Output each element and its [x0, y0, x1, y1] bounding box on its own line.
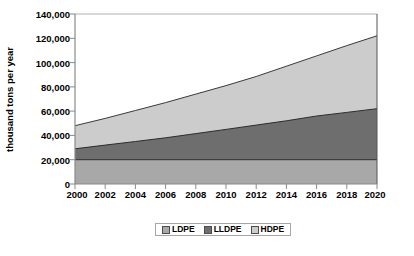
legend-swatch-icon	[251, 226, 259, 234]
area-chart: thousand tons per year 140,000 120,000 1…	[0, 0, 414, 256]
x-tick-label: 2004	[125, 189, 146, 200]
legend-label: LDPE	[172, 225, 195, 234]
x-tick-label: 2000	[66, 189, 87, 200]
legend-label: HDPE	[261, 225, 285, 234]
legend-swatch-icon	[204, 226, 212, 234]
x-tick-label: 2006	[155, 189, 176, 200]
x-axis-tick-labels: 2000 2002 2004 2006 2008 2010 2012 2014 …	[0, 0, 414, 256]
chart-legend: LDPE LLDPE HDPE	[155, 223, 291, 236]
x-tick-label: 2018	[336, 189, 357, 200]
legend-item-lldpe[interactable]: LLDPE	[204, 225, 242, 234]
legend-label: LLDPE	[214, 225, 242, 234]
x-tick-label: 2008	[185, 189, 206, 200]
legend-item-ldpe[interactable]: LDPE	[162, 225, 195, 234]
x-tick-label: 2002	[95, 189, 116, 200]
legend-item-hdpe[interactable]: HDPE	[251, 225, 285, 234]
x-tick-label: 2020	[364, 189, 385, 200]
x-tick-label: 2014	[276, 189, 297, 200]
x-tick-label: 2012	[246, 189, 267, 200]
legend-swatch-icon	[162, 226, 170, 234]
x-tick-label: 2016	[306, 189, 327, 200]
x-tick-label: 2010	[215, 189, 236, 200]
